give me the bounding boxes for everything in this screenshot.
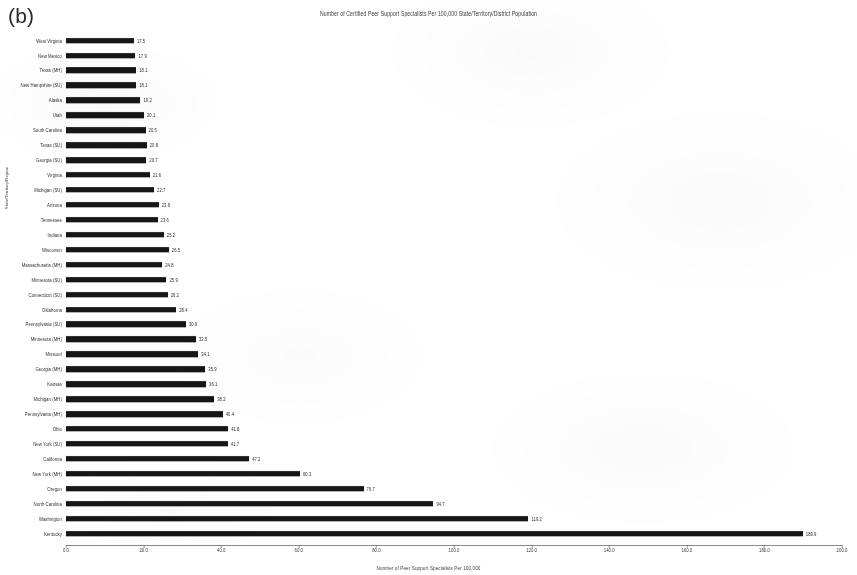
bar	[66, 217, 158, 222]
bar-category-label: Alaska	[49, 97, 62, 103]
bar-category-label: North Carolina	[34, 501, 62, 507]
bar	[66, 426, 228, 431]
bar	[66, 471, 300, 476]
bar-row: Utah20.1	[66, 109, 842, 122]
bar	[66, 83, 136, 88]
bar-row: Oklahoma28.4	[66, 303, 842, 316]
bar-value-label: 18.1	[139, 83, 147, 89]
x-tick-label: 180.0	[759, 548, 770, 554]
x-tick-label: 60.0	[295, 548, 303, 554]
bar-category-label: New York (SU)	[33, 441, 62, 447]
bar-value-label: 119.2	[531, 516, 541, 522]
bar-value-label: 25.2	[167, 232, 175, 238]
bar-row: Arizona23.9	[66, 198, 842, 211]
bar	[66, 307, 176, 312]
bar-category-label: West Virginia	[36, 38, 62, 44]
bar-category-label: Tennessee	[41, 217, 62, 223]
bar-row: Pennsylvania (MH)40.4	[66, 408, 842, 421]
bar	[66, 382, 206, 387]
bar	[66, 202, 159, 207]
bar	[66, 113, 144, 118]
x-axis-ticks: 0.020.040.060.080.0100.0120.0140.0160.01…	[66, 548, 842, 560]
bar-row: New York (MH)60.3	[66, 467, 842, 480]
bar-category-label: Utah	[53, 112, 62, 118]
x-tick-label: 40.0	[217, 548, 225, 554]
bar-value-label: 22.7	[157, 187, 165, 193]
bar	[66, 262, 162, 267]
x-tick-label: 20.0	[139, 548, 147, 554]
bar-value-label: 20.1	[147, 112, 155, 118]
bar-category-label: Georgia (SU)	[36, 157, 62, 163]
bar-category-label: Arizona	[47, 202, 62, 208]
bar-row: Washington119.2	[66, 512, 842, 525]
bar-value-label: 20.5	[149, 127, 157, 133]
bar-row: Missouri34.1	[66, 348, 842, 361]
bar-row: Tennessee23.6	[66, 213, 842, 226]
x-axis-title: Number of Peer Support Specialists Per 1…	[0, 566, 857, 572]
bar-row: South Carolina20.5	[66, 124, 842, 137]
bar-value-label: 40.4	[226, 411, 234, 417]
bar	[66, 277, 166, 282]
bar-row: Kentucky189.9	[66, 527, 842, 540]
bar-row: New Mexico17.9	[66, 49, 842, 62]
bars-area: West Virginia17.5New Mexico17.9Texas (MH…	[66, 34, 842, 542]
bar	[66, 337, 196, 342]
bar-category-label: California	[43, 456, 62, 462]
bar-category-label: Pennsylvania (MH)	[25, 411, 62, 417]
x-tick-label: 100.0	[449, 548, 460, 554]
bar-value-label: 41.7	[231, 441, 239, 447]
bar-value-label: 20.8	[150, 142, 158, 148]
bar-row: California47.2	[66, 452, 842, 465]
bar-row: Wisconsin26.5	[66, 243, 842, 256]
bar-category-label: South Carolina	[33, 127, 62, 133]
bar-value-label: 35.9	[208, 366, 216, 372]
bar-category-label: New Hampshire (SU)	[21, 83, 63, 89]
bar-category-label: Texas (SU)	[40, 142, 62, 148]
bar-value-label: 34.1	[201, 351, 209, 357]
bar-value-label: 41.8	[231, 426, 239, 432]
x-tick-label: 120.0	[526, 548, 537, 554]
bar-row: Oregon76.7	[66, 482, 842, 495]
x-tick-label: 160.0	[681, 548, 692, 554]
bar-category-label: Ohio	[53, 426, 62, 432]
bar	[66, 157, 146, 162]
bar	[66, 396, 214, 401]
bar-category-label: Missouri	[46, 351, 62, 357]
bar-value-label: 26.2	[171, 292, 179, 298]
x-tick-label: 80.0	[372, 548, 380, 554]
bar-value-label: 24.8	[165, 262, 173, 268]
bar	[66, 128, 146, 133]
bar	[66, 501, 433, 506]
bar-category-label: Minnesota (SU)	[31, 277, 62, 283]
bar	[66, 486, 364, 491]
bar-value-label: 33.5	[199, 337, 207, 343]
bar-row: North Carolina94.7	[66, 497, 842, 510]
bar	[66, 142, 147, 147]
bar-value-label: 17.5	[137, 38, 145, 44]
bar-category-label: Oklahoma	[42, 307, 62, 313]
bar-value-label: 26.5	[172, 247, 180, 253]
bar-category-label: Connecticut (SU)	[28, 292, 62, 298]
bar-category-label: New York (MH)	[32, 471, 62, 477]
bar-category-label: Kentucky	[44, 531, 62, 537]
bar-row: Massachusetts (MH)24.8	[66, 258, 842, 271]
x-tick-label: 200.0	[837, 548, 848, 554]
bar-row: Texas (SU)20.8	[66, 139, 842, 152]
bar-row: Alaska19.2	[66, 94, 842, 107]
bar	[66, 53, 135, 58]
bar-value-label: 94.7	[436, 501, 444, 507]
bar-row: Connecticut (SU)26.2	[66, 288, 842, 301]
bar-value-label: 47.2	[252, 456, 260, 462]
bar-category-label: Indiana	[48, 232, 62, 238]
bar	[66, 292, 168, 297]
chart-figure: (b) Number of Certified Peer Support Spe…	[0, 0, 857, 575]
bar-row: Virginia21.6	[66, 168, 842, 181]
bar	[66, 441, 228, 446]
bar-value-label: 17.9	[138, 53, 146, 59]
bar-row: Georgia (MH)35.9	[66, 363, 842, 376]
bar	[66, 38, 134, 43]
bar	[66, 516, 528, 521]
bar	[66, 232, 164, 237]
bar	[66, 322, 186, 327]
bar-category-label: Michigan (SU)	[34, 187, 62, 193]
